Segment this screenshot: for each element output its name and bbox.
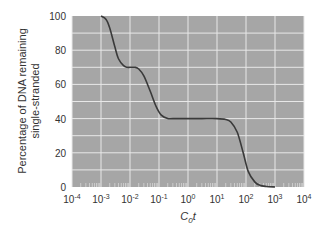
svg-text:60: 60 <box>55 79 67 90</box>
x-axis-tick-labels: 10-410-310-210-1100101102103104 <box>63 193 311 205</box>
svg-text:104: 104 <box>296 193 311 205</box>
svg-text:Percentage of DNA remaining: Percentage of DNA remaining <box>16 28 28 174</box>
svg-text:10-3: 10-3 <box>92 193 109 205</box>
y-axis-label: Percentage of DNA remaining single-stran… <box>16 28 41 174</box>
svg-text:100: 100 <box>49 11 66 22</box>
svg-text:10-4: 10-4 <box>63 193 80 205</box>
x-axis-label: C0t <box>180 210 196 225</box>
svg-text:single-stranded: single-stranded <box>29 63 41 138</box>
svg-text:40: 40 <box>55 114 67 125</box>
svg-text:102: 102 <box>238 193 253 205</box>
svg-text:100: 100 <box>180 193 195 205</box>
svg-text:10-1: 10-1 <box>150 193 167 205</box>
svg-text:20: 20 <box>55 148 67 159</box>
cot-curve-chart: 020406080100 10-410-310-210-110010110210… <box>0 0 329 226</box>
svg-text:80: 80 <box>55 45 67 56</box>
svg-text:103: 103 <box>267 193 282 205</box>
svg-text:0: 0 <box>60 182 66 193</box>
svg-text:10-2: 10-2 <box>121 193 138 205</box>
y-axis-tick-labels: 020406080100 <box>49 11 66 193</box>
svg-text:101: 101 <box>209 193 224 205</box>
